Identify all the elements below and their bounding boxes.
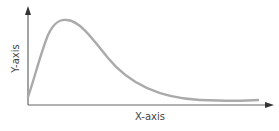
x-axis	[28, 102, 274, 108]
x-axis-label: X-axis	[135, 111, 165, 122]
data-curve	[28, 20, 258, 101]
y-axis-label: Y-axis	[10, 42, 21, 76]
x-axis-arrow-icon	[265, 102, 274, 108]
y-axis-arrow-icon	[25, 6, 31, 15]
